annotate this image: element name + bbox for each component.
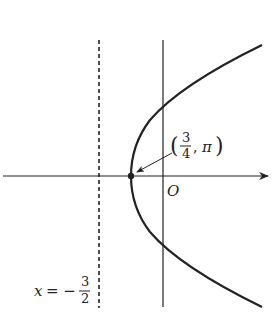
vertex-label-open-paren: ( <box>170 133 179 158</box>
parabola-diagram: ( 3 4 , π ) O x = − 3 2 <box>0 0 280 330</box>
vertex-pointer-arrow <box>137 153 172 172</box>
vertex-label-close-paren: ) <box>215 133 224 158</box>
directrix-label: x = − 3 2 <box>34 274 90 306</box>
vertex-label-comma: , <box>193 139 197 155</box>
directrix-label-numerator: 3 <box>81 274 89 289</box>
vertex-label-numerator: 3 <box>182 130 190 145</box>
vertex-label-denominator: 4 <box>182 146 190 161</box>
directrix-label-eq: = − <box>46 282 76 300</box>
directrix-label-x: x <box>34 282 43 300</box>
vertex-label: ( 3 4 , π ) <box>170 130 224 161</box>
vertex-point <box>128 173 134 179</box>
origin-label: O <box>167 182 179 200</box>
vertex-label-pi: π <box>201 138 213 156</box>
directrix-label-denominator: 2 <box>81 291 89 306</box>
